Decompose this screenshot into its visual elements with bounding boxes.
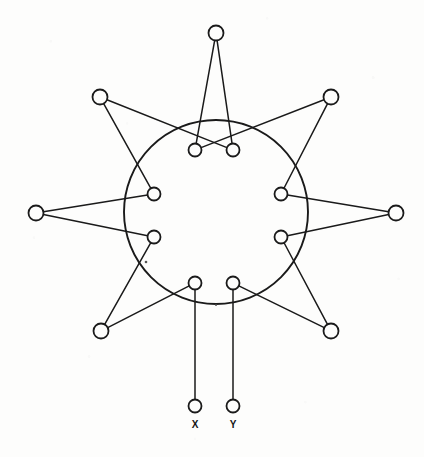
edge-left-to-inner-upper-left (43, 195, 147, 212)
scan-specks-layer (145, 261, 217, 306)
edge-lower-right-to-inner-lower-right (284, 243, 327, 325)
outer-node-upper-left[interactable] (93, 90, 108, 105)
outer-node-right[interactable] (389, 206, 404, 221)
nodes-layer (29, 26, 404, 413)
edge-right-to-inner-lower-right (287, 215, 388, 236)
edge-upper-right-to-inner-upper-right (284, 104, 328, 189)
inner-node-top-right[interactable] (227, 144, 240, 157)
outer-node-top[interactable] (209, 26, 224, 41)
inner-node-upper-right[interactable] (275, 188, 288, 201)
central-ring (124, 120, 308, 304)
outer-node-lower-right[interactable] (324, 324, 339, 339)
terminal-label-y: Y (230, 419, 237, 430)
diagram-page: XY (0, 0, 424, 457)
scan-speck-1 (145, 261, 148, 264)
edge-lower-right-to-inner-bottom-right (239, 286, 324, 328)
edge-right-to-inner-upper-right (287, 195, 388, 212)
inner-node-bottom-left[interactable] (189, 277, 202, 290)
inner-node-lower-right[interactable] (275, 231, 288, 244)
edge-left-to-inner-lower-left (43, 214, 147, 235)
outer-node-lower-left[interactable] (94, 324, 109, 339)
terminal-node-x[interactable] (189, 400, 202, 413)
inner-node-upper-left[interactable] (148, 188, 161, 201)
edge-lower-left-to-inner-lower-left (105, 243, 151, 325)
outer-node-upper-right[interactable] (324, 90, 339, 105)
edge-lower-left-to-inner-bottom-left (108, 286, 190, 328)
inner-node-bottom-right[interactable] (227, 277, 240, 290)
labels-layer: XY (192, 419, 237, 430)
terminal-node-y[interactable] (227, 400, 240, 413)
edge-top-to-inner-top-right (217, 40, 232, 143)
outer-node-left[interactable] (29, 206, 44, 221)
edge-upper-right-to-inner-top-left (201, 100, 324, 148)
network-diagram: XY (0, 0, 424, 457)
inner-node-top-left[interactable] (189, 144, 202, 157)
scan-speck-2 (215, 304, 217, 306)
inner-node-lower-left[interactable] (148, 231, 161, 244)
ring-layer (124, 120, 308, 304)
edge-top-to-inner-top-left (196, 40, 215, 143)
terminal-label-x: X (192, 419, 199, 430)
edge-upper-left-to-inner-upper-left (104, 104, 151, 189)
